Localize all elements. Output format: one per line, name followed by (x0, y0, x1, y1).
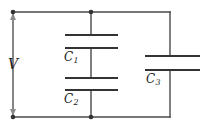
capacitor-c2-label-symbol: C (64, 92, 73, 106)
capacitor-c3-label-symbol: C (146, 72, 155, 86)
capacitor-circuit-diagram: V C1 C2 C3 (0, 0, 219, 134)
node-top-left-dot (11, 10, 16, 15)
circuit-schematic-canvas (0, 0, 219, 134)
voltage-label: V (8, 57, 18, 71)
node-bottom-left-dot (11, 115, 16, 120)
node-bottom-middle-dot (89, 115, 94, 120)
capacitor-c1-label-subscript: 1 (73, 56, 78, 65)
voltage-label-text: V (8, 56, 18, 72)
wires-group (13, 12, 170, 117)
capacitor-c1-label: C1 (64, 51, 78, 63)
capacitor-c2-label-subscript: 2 (73, 98, 78, 107)
capacitor-c2-label: C2 (64, 93, 78, 105)
capacitor-c3-label: C3 (146, 73, 160, 85)
node-top-middle-dot (89, 10, 94, 15)
capacitor-c1-label-symbol: C (64, 50, 73, 64)
capacitor-plates-group (65, 35, 200, 90)
capacitor-c3-label-subscript: 3 (155, 78, 160, 87)
junction-dots-group (11, 10, 94, 120)
